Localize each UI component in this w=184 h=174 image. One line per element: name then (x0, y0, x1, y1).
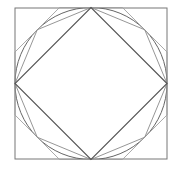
inscribed-diamond (15, 8, 167, 160)
circumscribed-octagon (15, 8, 167, 160)
outer-square (15, 8, 167, 159)
geometry-diagram (0, 0, 184, 174)
inscribed-circle (15, 8, 167, 160)
inscribed-octagon (15, 8, 167, 160)
